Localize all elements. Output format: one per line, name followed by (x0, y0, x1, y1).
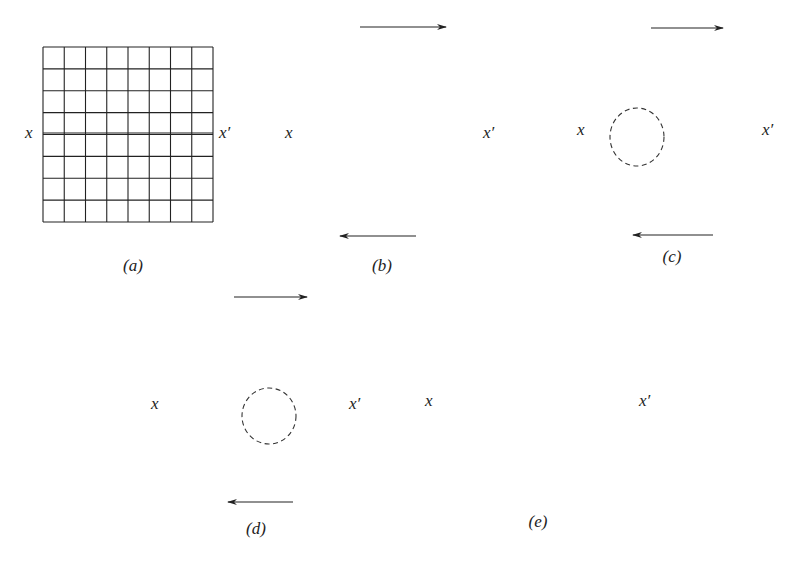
label-x-a: x (25, 124, 33, 141)
label-x-e: x (425, 392, 433, 409)
label-x-c: x (577, 121, 585, 138)
label-x-prime-b: x′ (483, 124, 494, 141)
panel-a-undeformed-grid (43, 47, 213, 222)
dislocation-figure (0, 0, 802, 562)
dislocation-circle-d (242, 388, 296, 444)
caption-d: (d) (246, 520, 266, 537)
label-x-prime-a: x′ (219, 124, 230, 141)
label-x-prime-d: x′ (349, 395, 360, 412)
caption-c: (c) (663, 248, 682, 265)
caption-a: (a) (123, 257, 143, 274)
label-x-prime-c: x′ (762, 121, 773, 138)
label-x-b: x (285, 124, 293, 141)
caption-b: (b) (372, 257, 392, 274)
caption-e: (e) (529, 513, 548, 530)
label-x-prime-e: x′ (639, 392, 650, 409)
dislocation-circle-c (610, 108, 664, 166)
label-x-d: x (151, 395, 159, 412)
